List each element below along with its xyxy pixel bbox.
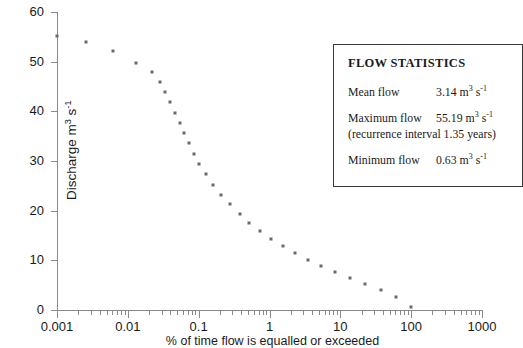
data-point — [183, 132, 186, 135]
data-point — [363, 283, 366, 286]
data-point — [348, 277, 351, 280]
x-tick-label: 0.01 — [115, 320, 140, 333]
y-tick-label: 30 — [0, 154, 44, 167]
x-tick-label: 1000 — [468, 320, 497, 333]
x-tick-minor — [232, 310, 233, 315]
x-tick-minor — [395, 310, 396, 315]
mean-flow-value: 3.14 m3 s-1 — [436, 82, 487, 99]
y-tick-label: 0 — [0, 303, 44, 316]
data-point — [220, 193, 223, 196]
x-tick-major — [57, 310, 58, 318]
data-point — [334, 271, 337, 274]
minimum-flow-label: Minimum flow — [348, 153, 436, 167]
x-tick-minor — [337, 310, 338, 315]
data-point — [85, 41, 88, 44]
x-tick-label: 0.1 — [190, 320, 208, 333]
x-tick-minor — [241, 310, 242, 315]
x-tick-minor — [121, 310, 122, 315]
x-tick-minor — [195, 310, 196, 315]
stats-row-mean: Mean flow3.14 m3 s-1 — [348, 82, 522, 99]
x-tick-minor — [454, 310, 455, 315]
recurrence-interval-note: (recurrence interval 1.35 years) — [348, 127, 522, 141]
x-tick-minor — [263, 310, 264, 315]
x-tick-minor — [408, 310, 409, 315]
data-point — [307, 258, 310, 261]
x-tick-minor — [112, 310, 113, 315]
data-point — [258, 230, 261, 233]
data-point — [151, 70, 154, 73]
y-tick-label: 50 — [0, 55, 44, 68]
x-tick-minor — [329, 310, 330, 315]
x-tick-major — [270, 310, 271, 318]
x-tick-minor — [188, 310, 189, 315]
x-tick-minor — [107, 310, 108, 315]
x-tick-minor — [466, 310, 467, 315]
x-tick-minor — [117, 310, 118, 315]
x-tick-minor — [259, 310, 260, 315]
x-tick-minor — [254, 310, 255, 315]
x-tick-minor — [461, 310, 462, 315]
x-tick-minor — [149, 310, 150, 315]
x-tick-minor — [183, 310, 184, 315]
data-point — [248, 221, 251, 224]
x-tick-minor — [303, 310, 304, 315]
x-tick-major — [199, 310, 200, 318]
data-point — [270, 237, 273, 240]
x-tick-minor — [125, 310, 126, 315]
stats-row-maximum: Maximum flow55.19 m3 s-1 — [348, 108, 522, 125]
x-axis-title: % of time flow is equalled or exceeded — [0, 334, 505, 348]
data-point — [174, 112, 177, 115]
mean-flow-label: Mean flow — [348, 85, 436, 99]
data-point — [164, 91, 167, 94]
x-tick-minor — [319, 310, 320, 315]
data-point — [294, 252, 297, 255]
x-tick-minor — [291, 310, 292, 315]
x-tick-label: 10 — [333, 320, 347, 333]
x-tick-minor — [325, 310, 326, 315]
data-point — [204, 173, 207, 176]
x-tick-minor — [162, 310, 163, 315]
x-tick-minor — [248, 310, 249, 315]
x-tick-minor — [445, 310, 446, 315]
maximum-flow-label: Maximum flow — [348, 111, 436, 125]
x-tick-minor — [475, 310, 476, 315]
y-tick-label: 60 — [0, 5, 44, 18]
data-point — [187, 142, 190, 145]
x-tick-minor — [170, 310, 171, 315]
x-tick-major — [340, 310, 341, 318]
x-tick-minor — [333, 310, 334, 315]
x-tick-minor — [312, 310, 313, 315]
data-point — [379, 289, 382, 292]
x-tick-minor — [192, 310, 193, 315]
data-point — [197, 162, 200, 165]
data-point — [134, 61, 137, 64]
data-point — [281, 245, 284, 248]
data-point — [56, 34, 59, 37]
data-point — [410, 305, 413, 308]
data-point — [395, 295, 398, 298]
y-tick-label: 20 — [0, 204, 44, 217]
data-point — [169, 101, 172, 104]
data-point — [192, 152, 195, 155]
x-tick-minor — [362, 310, 363, 315]
data-point — [158, 80, 161, 83]
x-tick-minor — [390, 310, 391, 315]
data-point — [212, 183, 215, 186]
x-tick-minor — [266, 310, 267, 315]
data-point — [179, 121, 182, 124]
minimum-flow-value: 0.63 m3 s-1 — [436, 150, 487, 167]
y-tick-label: 10 — [0, 253, 44, 266]
x-tick-minor — [177, 310, 178, 315]
data-point — [112, 50, 115, 53]
x-tick-minor — [471, 310, 472, 315]
data-point — [238, 212, 241, 215]
x-tick-label: 0.001 — [41, 320, 74, 333]
y-axis-title: Discharge m3 s-1 — [63, 50, 80, 250]
x-tick-minor — [404, 310, 405, 315]
x-tick-major — [482, 310, 483, 318]
data-point — [320, 265, 323, 268]
maximum-flow-value: 55.19 m3 s-1 — [436, 108, 493, 125]
x-tick-label: 1 — [266, 320, 273, 333]
data-point — [229, 203, 232, 206]
